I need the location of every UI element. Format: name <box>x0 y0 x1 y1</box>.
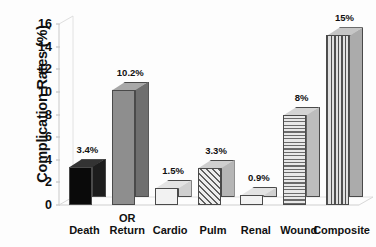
x-axis-label-line: Cardio <box>153 225 188 237</box>
x-axis-label-death: Death <box>69 225 100 237</box>
x-axis-label-cardio: Cardio <box>153 225 188 237</box>
data-label: 10.2% <box>117 67 144 78</box>
bar-renal[interactable] <box>240 195 263 205</box>
data-label: 3.4% <box>77 144 99 155</box>
bars-layer: 3.4%Death10.2%ORReturn1.5%Cardio3.3%Pulm… <box>0 0 376 247</box>
bar-front-face <box>112 90 135 205</box>
bar-front-face <box>326 35 349 205</box>
x-axis-label-line: Renal <box>241 225 271 237</box>
x-axis-label-line: Return <box>110 225 145 237</box>
x-axis-label-line: Wound <box>280 225 317 237</box>
x-axis-label-composite: Composite <box>313 225 370 237</box>
x-axis-label-line: Pulm <box>200 225 227 237</box>
bar-side-face <box>135 82 149 197</box>
x-axis-label-pulm: Pulm <box>200 225 227 237</box>
x-axis-label-line: Composite <box>313 225 370 237</box>
x-axis-label-or-return: ORReturn <box>110 213 145 236</box>
x-axis-label-line: Death <box>69 225 100 237</box>
bar-front-face <box>283 115 306 206</box>
data-label: 0.9% <box>248 172 270 183</box>
bar-front-face <box>198 168 221 205</box>
x-axis-label-line: OR <box>110 213 145 225</box>
bar-front-face <box>69 167 92 205</box>
bar-side-face <box>306 107 320 198</box>
data-label: 1.5% <box>162 165 184 176</box>
bar-front-face <box>240 195 263 205</box>
data-label: 8% <box>295 92 309 103</box>
bar-composite[interactable] <box>326 35 349 205</box>
bar-front-face <box>155 188 178 205</box>
data-label: 15% <box>335 12 354 23</box>
bar-pulm[interactable] <box>198 168 221 205</box>
bar-death[interactable] <box>69 167 92 205</box>
bar-wound[interactable] <box>283 115 306 206</box>
bar-cardio[interactable] <box>155 188 178 205</box>
x-axis-label-wound: Wound <box>280 225 317 237</box>
complication-rates-bar-chart: Complication Rates (%) 0246810121416 3.4… <box>0 0 376 247</box>
x-axis-label-renal: Renal <box>241 225 271 237</box>
bar-or-return[interactable] <box>112 90 135 205</box>
bar-side-face <box>349 27 363 197</box>
data-label: 3.3% <box>205 145 227 156</box>
